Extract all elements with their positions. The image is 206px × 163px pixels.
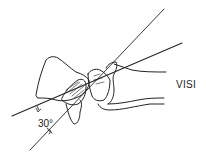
metacarpal-upper <box>114 64 166 72</box>
angle-label: 30° <box>38 118 53 129</box>
bone-lower-outline <box>98 104 164 110</box>
metacarpal-lower <box>108 98 164 104</box>
angle-arc-top <box>37 106 39 110</box>
visi-label: VISI <box>176 79 196 90</box>
